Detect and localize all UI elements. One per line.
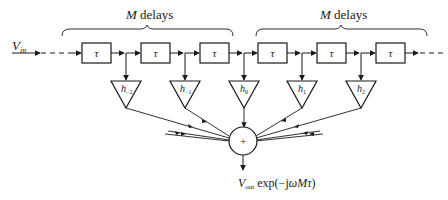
tap-weight-h-1: h−1 xyxy=(170,81,200,108)
output-label: Vout exp(−jωMτ) xyxy=(238,176,316,191)
delay-box-6: τ xyxy=(376,43,405,63)
brace-left xyxy=(62,25,233,36)
delay-box-5: τ xyxy=(317,43,346,63)
delay-box-2: τ xyxy=(141,43,170,63)
svg-text:+: + xyxy=(240,135,246,147)
tap-weight-h1: h1 xyxy=(287,81,317,108)
tap-weight-h2: h2 xyxy=(346,81,376,108)
input-label: Vin xyxy=(12,38,26,55)
delay-box-4: τ xyxy=(258,43,287,63)
brace-label-right: M delays xyxy=(319,7,367,22)
tap-weight-h-2: h−2 xyxy=(111,81,141,108)
brace-right xyxy=(256,25,427,36)
summing-junction: + xyxy=(229,127,257,155)
transversal-filter-diagram: M delays M delays Vin τ τ τ τ τ τ h−2 h−… xyxy=(0,0,448,200)
diagram-canvas: M delays M delays Vin τ τ τ τ τ τ h−2 h−… xyxy=(0,0,448,200)
tap-weight-h0: h0 xyxy=(229,81,259,108)
delay-box-1: τ xyxy=(82,43,111,63)
delay-box-3: τ xyxy=(200,43,229,63)
brace-label-left: M delays xyxy=(125,7,173,22)
